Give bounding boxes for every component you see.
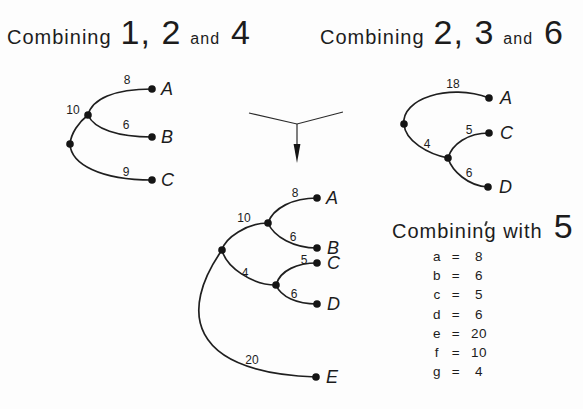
title-left-word: Combining	[7, 27, 112, 47]
node-merged-e	[312, 373, 320, 381]
merge-arrow-icon	[249, 112, 343, 163]
legend-name: f	[428, 345, 446, 360]
dendrogram-figure: 8 10 6 9 A B C	[0, 0, 583, 409]
edge-weight: 8	[292, 186, 299, 200]
legend-value: 20	[466, 326, 492, 341]
legend-name: e	[428, 326, 446, 341]
node-right-a	[485, 94, 493, 102]
leaf-label: E	[326, 367, 339, 387]
title-left-last-number: 4	[231, 15, 251, 49]
node-right-root	[400, 120, 408, 128]
title-left-numbers: 1, 2	[121, 15, 182, 49]
node-merged-g	[272, 281, 280, 289]
edge-weight: 4	[242, 266, 249, 280]
edge-merged-a	[268, 198, 317, 223]
leaf-label: D	[499, 177, 512, 197]
edge-weight: 10	[237, 211, 251, 225]
node-merged-f	[264, 219, 272, 227]
equals-sign: =	[446, 364, 466, 379]
leaf-label: C	[500, 123, 514, 143]
node-right-d	[484, 183, 492, 191]
tree-right: 18 4 5 6 A C D	[400, 77, 514, 197]
edge-weight: 9	[123, 165, 130, 179]
equals-sign: =	[446, 345, 466, 360]
equals-sign: =	[446, 287, 466, 302]
leaf-label: B	[161, 127, 173, 147]
legend-row: f = 10	[428, 343, 492, 362]
edge-left-a	[88, 89, 152, 115]
edge-weight: 6	[290, 230, 297, 244]
merge-arrow-head	[294, 144, 301, 163]
edge-merged-g	[222, 250, 276, 285]
tree-merged: 10 8 6 4 5 6 20 A B C D E	[199, 186, 341, 387]
edge-left-root-internal	[70, 115, 88, 144]
edge-weight: 6	[466, 166, 473, 180]
title-right: Combining 2, 3 and 6	[320, 15, 564, 49]
legend-row: a = 8	[428, 247, 492, 266]
edge-weight: 10	[66, 103, 80, 117]
title-left-and: and	[190, 31, 220, 47]
edge-weight: 18	[446, 77, 460, 91]
node-merged-b	[313, 244, 321, 252]
legend-value: 6	[466, 268, 492, 283]
equals-sign: =	[446, 249, 466, 264]
edge-weight: 8	[124, 73, 131, 87]
leaf-label: C	[327, 253, 341, 273]
title-combining-with: Combining with 5	[392, 209, 574, 243]
edge-weight: 6	[291, 287, 298, 301]
diagram-canvas: 8 10 6 9 A B C	[0, 0, 583, 409]
title-right-numbers: 2, 3	[434, 15, 495, 49]
equals-sign: =	[446, 307, 466, 322]
edge-weight: 4	[424, 137, 431, 151]
legend-name: b	[428, 268, 446, 283]
leaf-label: A	[325, 188, 338, 208]
legend-value: 6	[466, 307, 492, 322]
legend-row: d = 6	[428, 305, 492, 324]
legend-name: a	[428, 249, 446, 264]
node-merged-c	[313, 259, 321, 267]
node-left-internal	[84, 111, 92, 119]
legend-value: 5	[466, 287, 492, 302]
legend-row: g = 4	[428, 362, 492, 381]
legend-row: b = 6	[428, 266, 492, 285]
leaf-label: A	[160, 79, 173, 99]
legend-value: 4	[466, 364, 492, 379]
legend-name: g	[428, 364, 446, 379]
edge-left-c	[70, 144, 152, 180]
tree-left: 8 10 6 9 A B C	[66, 73, 175, 190]
node-merged-a	[313, 194, 321, 202]
title-right-word: Combining	[320, 27, 425, 47]
leaf-label: A	[499, 88, 512, 108]
node-merged-d	[313, 300, 321, 308]
legend-name: c	[428, 287, 446, 302]
equals-sign: =	[446, 326, 466, 341]
legend-row: c = 5	[428, 285, 492, 304]
equals-sign: =	[446, 268, 466, 283]
node-right-internal	[444, 154, 452, 162]
edge-merged-f	[222, 223, 268, 250]
edge-weight: 20	[245, 353, 259, 367]
edge-weight: 5	[466, 123, 473, 137]
node-left-root	[66, 140, 74, 148]
legend-row: e = 20	[428, 324, 492, 343]
node-right-c	[485, 129, 493, 137]
legend-name: d	[428, 307, 446, 322]
merge-arrow-branches	[249, 112, 343, 124]
leaf-label: C	[161, 170, 175, 190]
node-left-c	[148, 176, 156, 184]
title-bottom-number: 5	[554, 209, 574, 243]
edge-weight: 5	[301, 253, 308, 267]
title-right-and: and	[503, 31, 533, 47]
edge-right-a	[404, 92, 489, 124]
title-left: Combining 1, 2 and 4	[7, 15, 251, 49]
node-merged-root	[218, 246, 226, 254]
weight-legend: a = 8 b = 6 c = 5 d = 6 e = 20 f = 10	[428, 247, 492, 381]
title-right-last-number: 6	[544, 15, 564, 49]
title-bottom-word: Combining with	[392, 221, 543, 241]
edge-weight: 6	[123, 118, 130, 132]
node-left-a	[148, 85, 156, 93]
legend-value: 10	[466, 345, 492, 360]
leaf-label: D	[327, 294, 340, 314]
edge-merged-c	[276, 263, 317, 285]
edge-left-b	[88, 115, 152, 137]
